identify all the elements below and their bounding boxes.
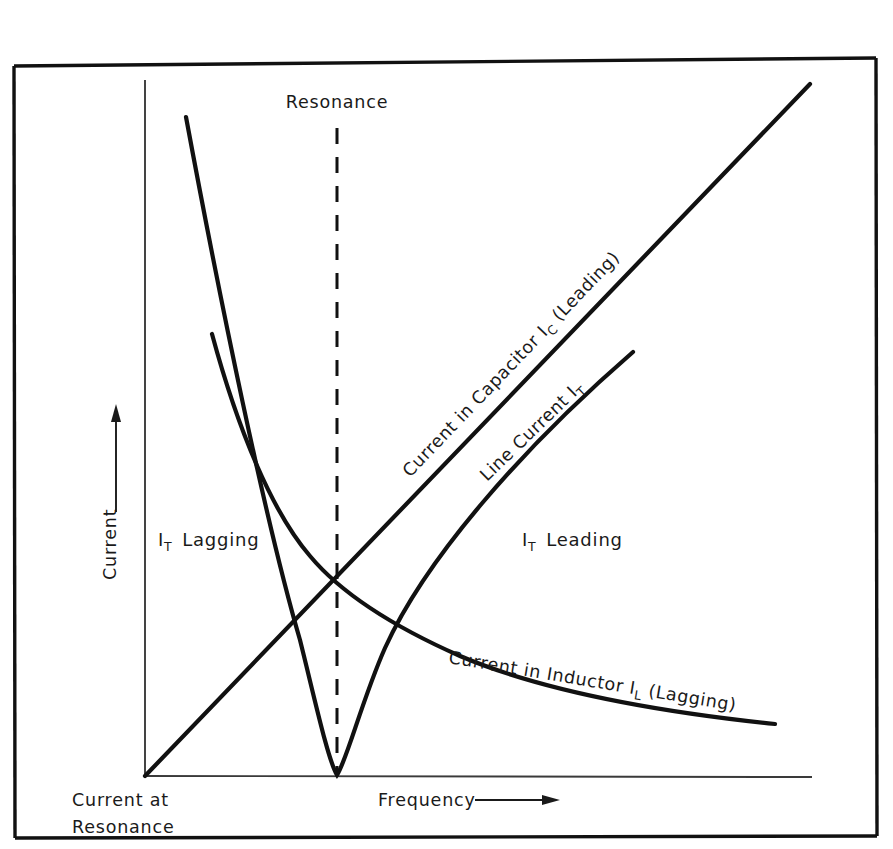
inductor-current-label-group: Current in Inductor IL (Lagging) bbox=[447, 647, 738, 719]
origin-caption-line-2: Resonance bbox=[72, 817, 174, 837]
inductor-label-main: Current in Inductor I bbox=[447, 647, 637, 698]
x-axis-annotation: Frequency bbox=[378, 790, 560, 810]
inductor-current-label: Current in Inductor IL (Lagging) bbox=[447, 647, 738, 719]
leading-label-tail: Leading bbox=[546, 529, 623, 550]
region-label-lagging: ITLagging bbox=[158, 529, 260, 554]
y-axis-label: Current bbox=[100, 509, 120, 580]
right-arrow-icon bbox=[542, 795, 560, 805]
x-axis-label: Frequency bbox=[378, 790, 476, 810]
up-arrow-icon bbox=[111, 404, 121, 422]
x-axis-line bbox=[145, 776, 812, 777]
lagging-label-tail: Lagging bbox=[182, 529, 259, 550]
figure-page: Current Frequency Current at Resonance R… bbox=[0, 0, 893, 849]
origin-caption: Current at Resonance bbox=[72, 790, 174, 837]
resonance-curve-figure: Current Frequency Current at Resonance R… bbox=[0, 0, 893, 849]
origin-caption-line-1: Current at bbox=[72, 790, 169, 810]
leading-label-subscript: T bbox=[527, 539, 536, 554]
y-axis-annotation: Current bbox=[100, 404, 121, 580]
region-label-leading: ITLeading bbox=[522, 529, 623, 554]
frame-left-edge bbox=[14, 66, 15, 838]
frame-right-edge bbox=[876, 58, 877, 836]
lagging-label-subscript: T bbox=[163, 539, 172, 554]
frame-top-edge bbox=[14, 58, 876, 66]
resonance-label: Resonance bbox=[286, 92, 388, 112]
capacitor-label-main: Current in Capacitor I bbox=[398, 322, 551, 481]
